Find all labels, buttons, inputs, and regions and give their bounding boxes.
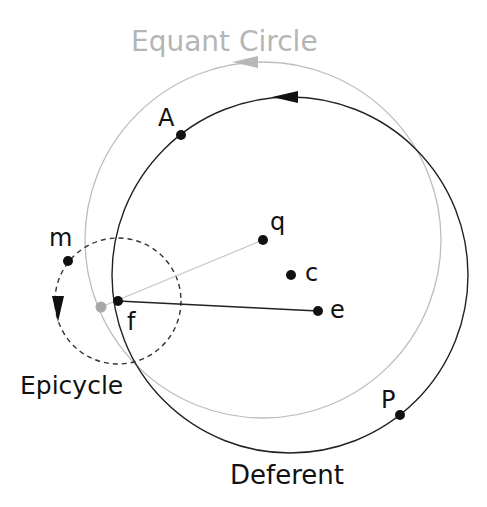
- point-c: [286, 270, 296, 280]
- label-epicycle: Epicycle: [20, 371, 123, 400]
- point-grey: [96, 302, 107, 313]
- deferent-arrow-icon: [272, 91, 298, 103]
- label-f: f: [127, 308, 136, 336]
- diagram-canvas: Equant Circle A m q c e f Epicycle P Def…: [0, 0, 487, 507]
- label-c: c: [305, 259, 318, 287]
- label-A: A: [158, 104, 175, 132]
- epicycle-arrow-icon: [52, 296, 64, 322]
- point-A: [176, 130, 186, 140]
- label-deferent: Deferent: [230, 460, 344, 490]
- point-P: [395, 410, 405, 420]
- point-e: [313, 306, 323, 316]
- label-q: q: [270, 208, 285, 236]
- point-q: [258, 235, 268, 245]
- line-f-e: [118, 301, 318, 311]
- line-f-q: [101, 240, 263, 307]
- point-f: [113, 296, 123, 306]
- label-m: m: [49, 224, 72, 252]
- label-P: P: [381, 386, 395, 414]
- label-equant-circle: Equant Circle: [131, 25, 318, 58]
- point-m: [63, 256, 73, 266]
- ptolemaic-diagram: Equant Circle A m q c e f Epicycle P Def…: [0, 0, 487, 507]
- label-e: e: [330, 296, 345, 324]
